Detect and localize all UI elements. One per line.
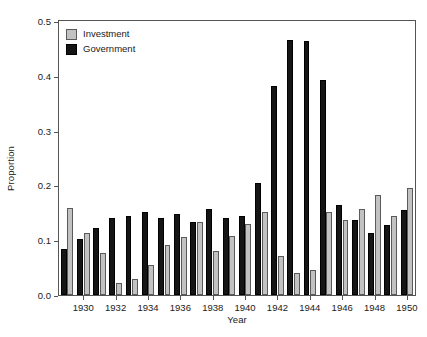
bar-investment-1942 — [278, 256, 284, 295]
bar-government-1942 — [271, 86, 277, 295]
y-tick-mark — [54, 296, 58, 297]
bar-government-1946 — [336, 205, 342, 295]
y-tick-label: 0.0 — [38, 289, 51, 302]
bar-government-1940 — [239, 216, 245, 295]
bar-investment-1937 — [197, 222, 203, 295]
bar-government-1950 — [401, 210, 407, 295]
y-tick-label: 0.2 — [38, 179, 51, 192]
x-tick-mark — [83, 296, 84, 300]
bar-investment-1936 — [181, 237, 187, 295]
bars-layer — [59, 21, 415, 295]
y-tick: 0.2 — [0, 186, 58, 187]
bar-government-1938 — [206, 209, 212, 295]
bar-investment-1943 — [294, 273, 300, 295]
x-tick-mark — [407, 296, 408, 300]
x-tick-label: 1936 — [164, 302, 196, 314]
bar-investment-1934 — [148, 265, 154, 295]
x-tick-mark — [277, 296, 278, 300]
bar-investment-1931 — [100, 253, 106, 295]
y-tick: 0.0 — [0, 296, 58, 297]
y-tick: 0.4 — [0, 77, 58, 78]
x-tick-label: 1932 — [100, 302, 132, 314]
bar-investment-1948 — [375, 195, 381, 295]
bar-government-1931 — [93, 228, 99, 295]
bar-investment-1933 — [132, 279, 138, 295]
y-tick-label: 0.4 — [38, 70, 51, 83]
x-tick-mark — [375, 296, 376, 300]
bar-government-1929 — [61, 249, 67, 295]
bar-government-1947 — [352, 220, 358, 295]
bar-government-1945 — [320, 80, 326, 295]
x-tick-label: 1930 — [67, 302, 99, 314]
y-axis-title: Proportion — [0, 0, 20, 337]
x-tick-mark — [116, 296, 117, 300]
y-tick-label: 0.3 — [38, 125, 51, 138]
bar-investment-1941 — [262, 212, 268, 295]
x-tick-label: 1944 — [294, 302, 326, 314]
x-tick-mark — [342, 296, 343, 300]
bar-investment-1940 — [245, 224, 251, 295]
bar-government-1930 — [77, 239, 83, 295]
chart-legend: InvestmentGovernment — [66, 28, 135, 55]
x-tick-label: 1934 — [132, 302, 164, 314]
x-tick-label: 1950 — [391, 302, 423, 314]
x-tick-mark — [180, 296, 181, 300]
bar-investment-1950 — [407, 188, 413, 295]
bar-government-1935 — [158, 218, 164, 295]
y-tick-label: 0.1 — [38, 234, 51, 247]
x-tick-mark — [245, 296, 246, 300]
bar-investment-1935 — [165, 245, 171, 295]
bar-government-1944 — [304, 41, 310, 295]
bar-government-1948 — [368, 233, 374, 295]
bar-government-1932 — [109, 218, 115, 295]
x-tick-mark — [310, 296, 311, 300]
legend-item-investment: Investment — [66, 28, 135, 40]
bar-investment-1949 — [391, 216, 397, 295]
x-tick-label: 1942 — [261, 302, 293, 314]
y-tick: 0.1 — [0, 241, 58, 242]
y-tick: 0.5 — [0, 22, 58, 23]
bar-investment-1938 — [213, 251, 219, 295]
bar-government-1936 — [174, 214, 180, 295]
bar-investment-1939 — [229, 236, 235, 295]
bar-government-1941 — [255, 183, 261, 295]
bar-government-1949 — [384, 225, 390, 295]
x-tick-label: 1940 — [229, 302, 261, 314]
y-tick: 0.3 — [0, 132, 58, 133]
bar-investment-1947 — [359, 209, 365, 295]
bar-government-1933 — [126, 216, 132, 295]
bar-government-1937 — [190, 222, 196, 295]
x-tick-label: 1948 — [359, 302, 391, 314]
bar-investment-1932 — [116, 283, 122, 295]
bar-investment-1946 — [343, 220, 349, 295]
bar-investment-1930 — [84, 233, 90, 295]
x-tick-mark — [148, 296, 149, 300]
y-tick-label: 0.5 — [38, 15, 51, 28]
legend-swatch-government — [66, 44, 77, 55]
x-tick-label: 1938 — [197, 302, 229, 314]
x-tick-label: 1946 — [326, 302, 358, 314]
x-tick-mark — [213, 296, 214, 300]
bar-chart-figure: Proportion Year 0.00.10.20.30.40.5 19301… — [0, 0, 427, 337]
legend-swatch-investment — [66, 29, 77, 40]
bar-investment-1944 — [310, 270, 316, 295]
legend-item-government: Government — [66, 43, 135, 55]
bar-investment-1929 — [67, 208, 73, 295]
bar-government-1943 — [287, 40, 293, 295]
legend-label: Government — [83, 43, 135, 55]
x-axis-title: Year — [58, 314, 416, 325]
legend-label: Investment — [83, 28, 129, 40]
bar-investment-1945 — [326, 212, 332, 295]
bar-government-1934 — [142, 212, 148, 295]
bar-government-1939 — [223, 218, 229, 295]
